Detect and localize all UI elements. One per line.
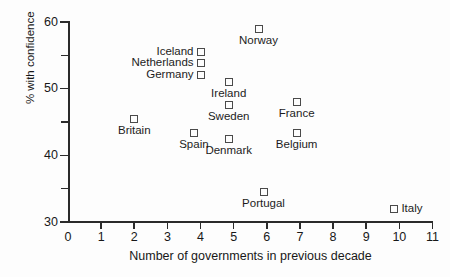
x-tick-label: 6 bbox=[255, 231, 279, 244]
data-point-label: Italy bbox=[401, 203, 422, 215]
scatter-chart: 30405060 01234567891011 % with confidenc… bbox=[0, 0, 450, 277]
y-axis-title: % with confidence bbox=[25, 0, 37, 143]
x-tick bbox=[200, 222, 202, 229]
x-tick bbox=[399, 222, 401, 229]
x-tick-label: 10 bbox=[387, 231, 411, 244]
x-tick-label: 9 bbox=[354, 231, 378, 244]
y-tick-major bbox=[60, 88, 68, 90]
x-tick-label: 8 bbox=[321, 231, 345, 244]
y-tick-minor bbox=[61, 188, 68, 190]
x-tick-label: 5 bbox=[222, 231, 246, 244]
x-tick bbox=[299, 222, 301, 229]
y-tick-major bbox=[60, 21, 68, 23]
data-point-marker bbox=[130, 115, 138, 123]
data-point-marker bbox=[225, 78, 233, 86]
data-point-marker bbox=[225, 135, 233, 143]
x-tick bbox=[233, 222, 235, 229]
data-point-marker bbox=[197, 59, 205, 67]
y-tick-major bbox=[60, 221, 68, 223]
y-tick-minor bbox=[61, 121, 68, 123]
x-tick bbox=[167, 222, 169, 229]
x-tick-label: 4 bbox=[189, 231, 213, 244]
data-point-marker bbox=[293, 98, 301, 106]
x-tick bbox=[365, 222, 367, 229]
x-axis-title: Number of governments in previous decade bbox=[68, 250, 433, 263]
data-point-label: Britain bbox=[118, 125, 151, 137]
y-tick-label: 40 bbox=[18, 149, 58, 162]
data-point-label: Denmark bbox=[205, 145, 252, 157]
data-point-marker bbox=[390, 205, 398, 213]
x-tick-label: 2 bbox=[122, 231, 146, 244]
data-point-marker bbox=[197, 48, 205, 56]
y-axis-line bbox=[68, 21, 70, 223]
data-point-marker bbox=[293, 129, 301, 137]
x-tick bbox=[332, 222, 334, 229]
data-point-label: France bbox=[279, 108, 315, 120]
data-point-label: Ireland bbox=[211, 88, 246, 100]
x-tick-label: 7 bbox=[288, 231, 312, 244]
x-tick bbox=[266, 222, 268, 229]
data-point-label: Spain bbox=[179, 139, 208, 151]
data-point-marker bbox=[255, 25, 263, 33]
data-point-marker bbox=[260, 188, 268, 196]
data-point-label: Sweden bbox=[208, 111, 250, 123]
y-tick-label: 30 bbox=[18, 216, 58, 229]
x-tick-label: 0 bbox=[56, 231, 80, 244]
data-point-label: Netherlands bbox=[132, 58, 194, 70]
x-tick bbox=[100, 222, 102, 229]
data-point-marker bbox=[225, 101, 233, 109]
x-tick-label: 11 bbox=[421, 231, 445, 244]
data-point-label: Germany bbox=[146, 70, 193, 82]
data-point-label: Portugal bbox=[242, 198, 285, 210]
data-point-marker bbox=[197, 71, 205, 79]
x-tick bbox=[133, 222, 135, 229]
data-point-label: Belgium bbox=[276, 139, 318, 151]
data-point-label: Norway bbox=[239, 35, 278, 47]
x-tick-label: 3 bbox=[155, 231, 179, 244]
data-point-marker bbox=[190, 129, 198, 137]
x-axis-line bbox=[68, 221, 433, 223]
y-tick-major bbox=[60, 155, 68, 157]
y-tick-minor bbox=[61, 55, 68, 57]
x-tick bbox=[432, 222, 434, 229]
x-tick-label: 1 bbox=[89, 231, 113, 244]
